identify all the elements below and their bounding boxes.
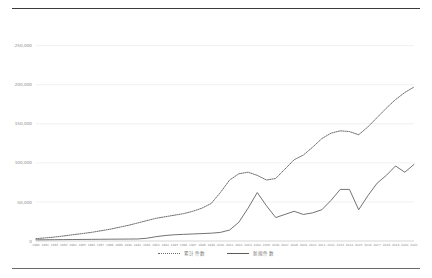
chart-page: 050,000100,000150,000200,000250,000 1980… <box>0 0 432 278</box>
x-tick-label: 1990 <box>125 243 133 247</box>
x-tick-label: 1981 <box>42 243 50 247</box>
x-tick-label: 2001 <box>226 243 234 247</box>
x-tick-label: 2011 <box>318 243 326 247</box>
x-tick-label: 1995 <box>171 243 179 247</box>
x-tick-label: 2000 <box>217 243 225 247</box>
line-chart: 050,000100,000150,000200,000250,000 1980… <box>0 0 432 278</box>
x-tick-label: 1994 <box>161 243 169 247</box>
x-tick-label: 2005 <box>263 243 271 247</box>
x-tick-label: 2017 <box>373 243 381 247</box>
dotted-line-marker-icon <box>158 252 180 255</box>
y-axis-tick-labels: 050,000100,000150,000200,000250,000 <box>15 43 33 243</box>
legend-label-new: 新規件数 <box>253 250 274 256</box>
x-tick-label: 2010 <box>309 243 317 247</box>
x-tick-label: 1987 <box>97 243 105 247</box>
x-tick-label: 2021 <box>410 243 418 247</box>
x-tick-label: 1997 <box>189 243 197 247</box>
x-tick-label: 1982 <box>51 243 59 247</box>
chart-plot-svg: 050,000100,000150,000200,000250,000 1980… <box>0 0 432 278</box>
legend-item-cumulative[interactable]: 累計件数 <box>158 250 205 256</box>
x-tick-label: 2004 <box>254 243 262 247</box>
x-tick-label: 1985 <box>78 243 86 247</box>
x-tick-label: 1980 <box>32 243 40 247</box>
x-tick-label: 2008 <box>290 243 298 247</box>
x-tick-label: 2006 <box>272 243 280 247</box>
y-tick-label: 150,000 <box>15 121 33 126</box>
x-tick-label: 2015 <box>355 243 363 247</box>
legend-item-new[interactable]: 新規件数 <box>227 250 274 256</box>
x-tick-label: 1989 <box>115 243 123 247</box>
x-axis-tick-labels: 1980198119821983198419851986198719881989… <box>32 243 418 247</box>
x-tick-label: 1998 <box>198 243 206 247</box>
x-tick-label: 1996 <box>180 243 188 247</box>
bottom-divider-rule <box>12 268 420 269</box>
x-tick-label: 2007 <box>281 243 289 247</box>
x-tick-label: 2009 <box>300 243 308 247</box>
x-tick-label: 2016 <box>364 243 372 247</box>
legend-label-cumulative: 累計件数 <box>184 250 205 256</box>
x-tick-label: 2012 <box>327 243 335 247</box>
x-tick-label: 2003 <box>244 243 252 247</box>
x-tick-label: 1993 <box>152 243 160 247</box>
chart-legend: 累計件数 新規件数 <box>0 250 432 256</box>
x-tick-label: 1991 <box>134 243 142 247</box>
grid-lines <box>36 46 414 202</box>
x-tick-label: 2019 <box>392 243 400 247</box>
x-tick-label: 1999 <box>207 243 215 247</box>
x-tick-label: 1984 <box>69 243 77 247</box>
x-tick-label: 1983 <box>60 243 68 247</box>
solid-line-marker-icon <box>227 252 249 255</box>
y-tick-label: 250,000 <box>15 43 33 48</box>
x-tick-label: 1986 <box>88 243 96 247</box>
x-tick-label: 2018 <box>383 243 391 247</box>
x-tick-label: 1992 <box>143 243 151 247</box>
x-tick-label: 2020 <box>401 243 409 247</box>
y-tick-label: 100,000 <box>15 160 33 165</box>
y-tick-label: 50,000 <box>17 200 32 205</box>
x-tick-label: 2014 <box>346 243 354 247</box>
x-tick-label: 2002 <box>235 243 243 247</box>
x-tick-label: 2013 <box>337 243 345 247</box>
y-tick-label: 200,000 <box>15 82 33 87</box>
x-tick-label: 1988 <box>106 243 114 247</box>
